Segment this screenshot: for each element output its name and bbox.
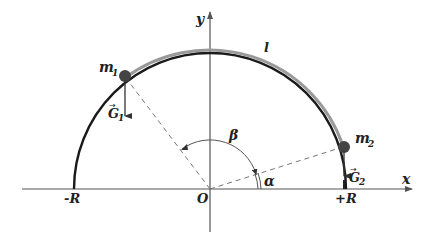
x-axis-label: x [401, 171, 411, 187]
beta-arc [182, 140, 256, 174]
svg-text:2: 2 [367, 139, 374, 149]
rope-label: l [264, 40, 269, 55]
alpha-arc [255, 174, 258, 189]
beta-arrow-start-icon [181, 144, 188, 150]
svg-text:→: → [350, 165, 357, 174]
mass2-label: m 2 [355, 130, 374, 149]
g2-label: G 2 → [349, 165, 365, 187]
pos-r-label: +R [335, 191, 357, 206]
y-axis-label: y [195, 11, 205, 27]
radius-to-m2 [210, 147, 343, 189]
beta-label: β [228, 127, 239, 143]
neg-r-label: -R [64, 191, 80, 206]
svg-text:2: 2 [358, 177, 365, 187]
radius-to-m1 [126, 78, 210, 189]
alpha-arc-inner [258, 173, 261, 189]
physics-diagram: y x O -R +R l m 1 G 1 → m 2 G 2 → α β [0, 0, 428, 238]
g1-label: G 1 → [108, 101, 124, 123]
alpha-label: α [264, 173, 275, 189]
origin-label: O [197, 191, 209, 206]
svg-text:1: 1 [112, 68, 118, 78]
svg-text:→: → [109, 101, 116, 110]
mass1-label: m 1 [99, 59, 118, 78]
svg-text:1: 1 [118, 113, 124, 123]
